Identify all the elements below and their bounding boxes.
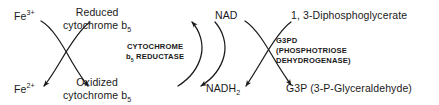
oxidized-cytb5-subscript: 5 [127,96,131,104]
label-fe2-plus: Fe2+ [14,82,35,95]
fe3-charge: 3+ [26,9,34,17]
label-g3pd-enzyme: G3PD (PHOSPHOTRIOSE DEHYDROGENASE) [276,36,351,66]
fe2-charge: 2+ [26,82,34,90]
label-g3p-glyceraldehyde: G3P (3-P-Glyceraldehyde) [286,82,412,94]
g3pd-line1: G3PD [276,36,351,46]
cytb5-reductase-line2: b5 REDUCTASE [126,52,184,63]
label-nad: NAD [215,9,237,21]
g3pd-line3: DEHYDROGENASE) [276,56,351,66]
oxidized-cytb5-line1: Oxidized [63,76,131,89]
nadh2-subscript: 2 [236,89,240,97]
cytb5-reductase-line1: CYTOCHROME [126,42,184,52]
fe3-text: Fe [14,10,26,22]
oxidized-cytb5-line2: cytochrome b5 [63,89,131,105]
label-oxidized-cytochrome-b5: Oxidized cytochrome b5 [63,76,131,105]
reaction-diagram: Fe3+ Fe2+ Reduced cytochrome b5 Oxidized… [0,0,439,105]
reduced-cytb5-subscript: 5 [127,26,131,34]
fe2-text: Fe [14,83,26,95]
g3pd-line2: (PHOSPHOTRIOSE [276,46,351,56]
arrow-nad-to-nadh2 [201,22,225,86]
label-reduced-cytochrome-b5: Reduced cytochrome b5 [63,6,131,35]
label-cytochrome-b5-reductase: CYTOCHROME b5 REDUCTASE [126,42,184,63]
nadh2-text: NADH [206,82,236,94]
label-diphosphoglycerate: 1, 3-Diphosphoglycerate [291,9,407,21]
reduced-cytb5-line1: Reduced [63,6,131,19]
label-nadh2: NADH2 [206,82,240,98]
label-fe3-plus: Fe3+ [14,9,35,22]
reduced-cytb5-line2: cytochrome b5 [63,19,131,35]
